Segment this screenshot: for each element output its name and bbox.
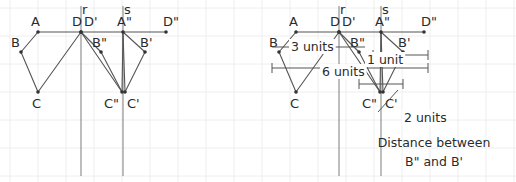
point-marker-A xyxy=(36,30,40,34)
point-marker-B xyxy=(277,50,281,54)
point-marker-C xyxy=(294,90,298,94)
point-marker-App xyxy=(379,30,383,34)
point-label-Dpp: D" xyxy=(421,14,437,29)
point-marker-App xyxy=(121,30,125,34)
point-label-A: A xyxy=(289,14,298,29)
annotation-label-two-units: 2 units xyxy=(404,110,447,125)
annotation-label-one-unit: 1 unit xyxy=(367,52,403,67)
point-label-App: A" xyxy=(117,14,132,29)
point-label-B: B xyxy=(269,35,278,50)
point-label-Dp: D' xyxy=(342,14,356,29)
point-label-C: C xyxy=(32,96,41,111)
point-marker-Cp xyxy=(123,90,127,94)
point-label-Cpp: C" xyxy=(104,96,119,111)
point-label-Bp: B' xyxy=(398,35,411,50)
point-marker-Dpp xyxy=(422,30,426,34)
point-label-D: D xyxy=(330,14,340,29)
point-marker-Dp xyxy=(79,30,83,34)
point-label-Dpp: D" xyxy=(163,14,179,29)
point-label-A: A xyxy=(31,14,40,29)
point-label-C: C xyxy=(290,96,299,111)
point-label-Bpp: B" xyxy=(92,35,107,50)
point-label-Bp: B' xyxy=(140,35,153,50)
point-marker-Bpp xyxy=(99,50,103,54)
point-marker-C xyxy=(36,90,40,94)
annotation-label-six-units: 6 units xyxy=(322,64,365,79)
point-label-D: D xyxy=(72,14,82,29)
caption-line1: Distance between xyxy=(378,135,491,150)
point-label-App: A" xyxy=(375,14,390,29)
caption-line2: B" and B' xyxy=(405,154,463,169)
geometry-diagram-svg: rsABCDD'A"B"B'C"C'D"rsABCDD'A"B"B'C"C'D"… xyxy=(0,0,516,182)
point-label-B: B xyxy=(11,35,20,50)
point-marker-Dp xyxy=(337,30,341,34)
point-marker-Bpp xyxy=(357,50,361,54)
point-label-Cp: C' xyxy=(385,96,398,111)
point-label-Dp: D' xyxy=(84,14,98,29)
annotation-label-three-units: 3 units xyxy=(291,39,334,54)
point-label-Bpp: B" xyxy=(350,35,365,50)
point-marker-Cp xyxy=(381,90,385,94)
point-label-Cp: C' xyxy=(127,96,140,111)
point-marker-Dpp xyxy=(164,30,168,34)
point-marker-Bp xyxy=(143,50,147,54)
diagram-stage: rsABCDD'A"B"B'C"C'D"rsABCDD'A"B"B'C"C'D"… xyxy=(0,0,516,182)
point-marker-B xyxy=(19,50,23,54)
point-marker-A xyxy=(294,30,298,34)
point-label-Cpp: C" xyxy=(362,96,377,111)
